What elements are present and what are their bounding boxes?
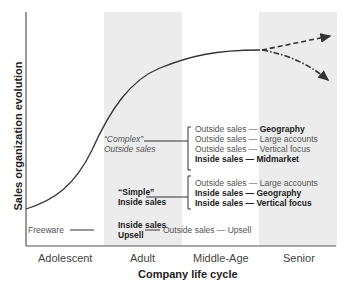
growth-branch — [262, 36, 330, 50]
x-tick-senior: Senior — [283, 252, 315, 264]
complex-items: Outside sales — Geography Outside sales … — [195, 124, 318, 164]
decline-branch — [262, 50, 328, 80]
simple-item: Inside sales — Geography — [195, 188, 318, 198]
inside-upsell-label: Inside sales Upsell — [118, 220, 166, 240]
x-tick-middle-age: Middle-Age — [193, 252, 249, 264]
complex-item: Inside sales — Midmarket — [195, 154, 318, 164]
simple-items: Outside sales — Large accounts Inside sa… — [195, 178, 318, 208]
freeware-label: Freeware — [28, 225, 64, 235]
complex-item: Outside sales — Vertical focus — [195, 144, 318, 154]
complex-label: “Complex” Outside sales — [104, 134, 156, 154]
complex-item: Outside sales — Large accounts — [195, 134, 318, 144]
x-tick-adult: Adult — [130, 252, 155, 264]
y-axis-label: Sales organization evolution — [12, 56, 24, 216]
x-axis-label: Company life cycle — [138, 268, 238, 280]
outside-upsell-label: Outside sales — Upsell — [163, 225, 251, 235]
simple-item: Outside sales — Large accounts — [195, 178, 318, 188]
complex-item: Outside sales — Geography — [195, 124, 318, 134]
simple-label: “Simple” Inside sales — [118, 187, 166, 207]
x-tick-adolescent: Adolescent — [38, 252, 92, 264]
simple-item: Inside sales — Vertical focus — [195, 198, 318, 208]
